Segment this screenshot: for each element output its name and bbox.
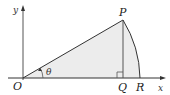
sector-diagram: O P Q R x y θ: [0, 0, 170, 95]
label-P: P: [118, 6, 127, 19]
label-y-axis: y: [12, 5, 19, 15]
y-axis-arrow-icon: [21, 5, 25, 11]
label-x-axis: x: [158, 83, 163, 93]
label-Q: Q: [118, 81, 127, 94]
x-axis-arrow-icon: [160, 76, 166, 80]
label-O: O: [13, 80, 22, 93]
label-theta: θ: [46, 67, 52, 77]
label-R: R: [135, 81, 144, 94]
